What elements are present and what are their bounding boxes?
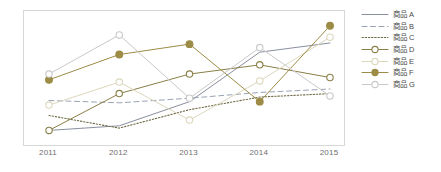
data-point[interactable]: [186, 117, 192, 123]
data-point[interactable]: [46, 127, 52, 133]
legend-swatch-icon: [360, 79, 390, 90]
x-axis-tick-2011: 2011: [39, 148, 57, 157]
data-point[interactable]: [256, 98, 263, 105]
plot-area: [23, 10, 345, 146]
x-axis-tick-2013: 2013: [179, 148, 198, 157]
legend-swatch-icon: [360, 21, 390, 32]
legend-item-商品-E[interactable]: 商品 E: [360, 55, 438, 67]
legend-swatch-icon: [360, 56, 390, 67]
legend-item-商品-G[interactable]: 商品 G: [360, 79, 438, 91]
legend-label: 商品 G: [393, 79, 415, 90]
data-point[interactable]: [46, 102, 52, 108]
series-line-商品-E: [49, 37, 330, 120]
legend-item-商品-F[interactable]: 商品 F: [360, 67, 438, 79]
data-point[interactable]: [327, 34, 333, 40]
legend-item-商品-C[interactable]: 商品 C: [360, 32, 438, 44]
legend-swatch-icon: [360, 44, 390, 55]
legend-label: 商品 C: [393, 32, 415, 43]
series-markers: [46, 22, 334, 133]
data-point[interactable]: [116, 79, 122, 85]
legend-label: 商品 D: [393, 44, 415, 55]
x-axis: 20112012201320142015: [23, 148, 345, 164]
legend-item-商品-B[interactable]: 商品 B: [360, 21, 438, 33]
legend-label: 商品 B: [393, 21, 414, 32]
line-chart-canvas: [24, 11, 344, 145]
legend-label: 商品 F: [393, 67, 414, 78]
legend-label: 商品 E: [393, 56, 414, 67]
data-point[interactable]: [327, 74, 333, 80]
data-point[interactable]: [327, 93, 333, 99]
data-point[interactable]: [116, 90, 122, 96]
data-point[interactable]: [116, 32, 122, 38]
data-point[interactable]: [46, 71, 52, 77]
data-point[interactable]: [116, 51, 123, 58]
x-axis-tick-2012: 2012: [109, 148, 128, 157]
x-axis-tick-2015: 2015: [320, 148, 339, 157]
legend-label: 商品 A: [393, 9, 414, 20]
legend-swatch-icon: [360, 32, 390, 43]
data-point[interactable]: [186, 71, 192, 77]
chart-legend: 商品 A商品 B商品 C商品 D商品 E商品 F商品 G: [360, 9, 438, 90]
legend-item-商品-D[interactable]: 商品 D: [360, 44, 438, 56]
legend-swatch-icon: [360, 9, 390, 20]
chart-screenshot: 20112012201320142015 商品 A商品 B商品 C商品 D商品 …: [0, 0, 441, 172]
data-point[interactable]: [327, 22, 334, 29]
x-axis-tick-2014: 2014: [249, 148, 268, 157]
data-point[interactable]: [186, 41, 193, 48]
data-point[interactable]: [257, 78, 263, 84]
data-point[interactable]: [257, 62, 263, 68]
data-point[interactable]: [257, 44, 263, 50]
legend-item-商品-A[interactable]: 商品 A: [360, 9, 438, 21]
data-point[interactable]: [186, 95, 192, 101]
legend-swatch-icon: [360, 67, 390, 78]
